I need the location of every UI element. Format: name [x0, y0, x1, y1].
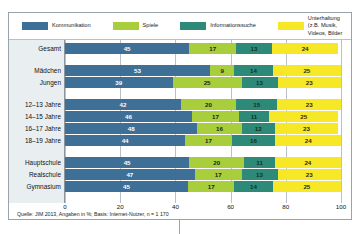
- bar-row: Gymnasium45171425: [9, 181, 351, 192]
- row-label: Mädchen: [9, 67, 65, 74]
- bar-value-label: 13: [251, 45, 258, 52]
- legend-item[interactable]: Kommunikation: [22, 13, 91, 39]
- bar-segment: 46: [65, 111, 192, 122]
- bar-row: 16–17 Jahre48161223: [9, 123, 351, 134]
- bar-row: Realschule47171323: [9, 169, 351, 180]
- bar-row: 12–13 Jahre42201523: [9, 99, 351, 110]
- x-tick-label: 100: [336, 203, 346, 210]
- legend-item[interactable]: Informationssuche: [180, 13, 256, 39]
- bar-value-label: 45: [124, 45, 131, 52]
- bar-value-label: 16: [250, 137, 257, 144]
- bar-segment: 53: [65, 65, 210, 76]
- bar-rows: Gesamt45171324Mädchen5391425Jungen392513…: [9, 40, 351, 203]
- bar-segment: 39: [65, 77, 173, 88]
- bar-value-label: 9: [220, 67, 223, 74]
- bar-value-label: 24: [302, 45, 309, 52]
- bar-value-label: 25: [204, 79, 211, 86]
- bar-row: Mädchen5391425: [9, 65, 351, 76]
- chart-legend: KommunikationSpieleInformationssucheUnte…: [9, 13, 351, 40]
- row-label: 14–15 Jahre: [9, 113, 65, 120]
- legend-item[interactable]: Unterhaltung (z.B. Musik, Videos, Bilder: [278, 13, 351, 39]
- x-tick-label: 20: [117, 203, 124, 210]
- legend-item-label: Unterhaltung (z.B. Musik, Videos, Bilder: [308, 15, 351, 36]
- bar-segment: 24: [275, 135, 341, 146]
- bar-value-label: 44: [122, 137, 129, 144]
- bar-value-label: 13: [256, 79, 263, 86]
- bar-value-label: 14: [250, 67, 257, 74]
- bar-segment: 24: [272, 43, 338, 54]
- bar-value-label: 17: [205, 137, 212, 144]
- legend-item-label: Informationssuche: [210, 22, 256, 29]
- legend-swatch-icon: [22, 22, 48, 30]
- bar-value-label: 15: [253, 101, 260, 108]
- bar-track: 45171425: [65, 181, 341, 192]
- bar-value-label: 17: [215, 171, 222, 178]
- bar-value-label: 20: [213, 159, 220, 166]
- bar-segment: 17: [189, 43, 236, 54]
- bar-value-label: 47: [126, 171, 133, 178]
- row-label: Hauptschule: [9, 159, 65, 166]
- bar-row: Hauptschule45201124: [9, 157, 351, 168]
- bar-track: 42201523: [65, 99, 341, 110]
- plot-area: Gesamt45171324Mädchen5391425Jungen392513…: [9, 40, 351, 203]
- bar-segment: 17: [188, 181, 234, 192]
- x-tick-label: 0: [63, 203, 66, 210]
- row-label: Realschule: [9, 171, 65, 178]
- bar-value-label: 45: [124, 159, 131, 166]
- bar-track: 48161223: [65, 123, 341, 134]
- bar-segment: 14: [234, 65, 272, 76]
- bar-value-label: 25: [303, 67, 310, 74]
- row-label: Gymnasium: [9, 183, 65, 190]
- bar-value-label: 25: [300, 113, 307, 120]
- bar-segment: 13: [242, 77, 278, 88]
- bar-segment: 23: [275, 123, 338, 134]
- bar-value-label: 24: [305, 137, 312, 144]
- bar-segment: 48: [65, 123, 197, 134]
- bar-value-label: 46: [125, 113, 132, 120]
- row-label: 12–13 Jahre: [9, 101, 65, 108]
- legend-item-label: Spiele: [143, 22, 159, 29]
- bar-segment: 16: [232, 135, 276, 146]
- bar-segment: 12: [242, 123, 275, 134]
- bar-value-label: 23: [306, 101, 313, 108]
- bar-value-label: 23: [303, 125, 310, 132]
- bar-segment: 25: [173, 77, 242, 88]
- bar-segment: 25: [273, 181, 341, 192]
- row-label: 16–17 Jahre: [9, 125, 65, 132]
- row-label: 18–19 Jahre: [9, 137, 65, 144]
- bar-segment: 9: [210, 65, 235, 76]
- bar-segment: 25: [269, 111, 338, 122]
- bar-track: 45171324: [65, 43, 341, 54]
- bar-segment: 45: [65, 43, 189, 54]
- bar-value-label: 11: [251, 113, 258, 120]
- bar-segment: 15: [236, 99, 277, 110]
- bar-segment: 23: [278, 169, 341, 180]
- bar-segment: 47: [65, 169, 195, 180]
- bar-segment: 17: [192, 111, 239, 122]
- row-label: Jungen: [9, 79, 65, 86]
- bar-value-label: 39: [115, 79, 122, 86]
- legend-swatch-icon: [180, 22, 206, 30]
- bar-value-label: 12: [255, 125, 262, 132]
- bar-segment: 17: [185, 135, 231, 146]
- source-note: Quelle: JIM 2013, Angaben in %; Basis: I…: [17, 211, 169, 217]
- chart-figure: KommunikationSpieleInformationssucheUnte…: [8, 12, 352, 220]
- bar-value-label: 24: [304, 159, 311, 166]
- bar-segment: 23: [277, 99, 340, 110]
- x-tick-label: 60: [227, 203, 234, 210]
- bar-track: 5391425: [65, 65, 341, 76]
- x-tick-label: 40: [172, 203, 179, 210]
- bar-value-label: 14: [250, 183, 257, 190]
- bar-segment: 13: [236, 43, 272, 54]
- bar-value-label: 17: [212, 113, 219, 120]
- bar-value-label: 42: [120, 101, 127, 108]
- bar-value-label: 17: [208, 183, 215, 190]
- bar-value-label: 48: [128, 125, 135, 132]
- bar-row: 14–15 Jahre46171125: [9, 111, 351, 122]
- legend-item[interactable]: Spiele: [113, 13, 159, 39]
- bar-segment: 11: [239, 111, 269, 122]
- bar-segment: 20: [189, 157, 244, 168]
- bar-value-label: 25: [303, 183, 310, 190]
- legend-swatch-icon: [278, 22, 304, 30]
- bar-segment: 42: [65, 99, 181, 110]
